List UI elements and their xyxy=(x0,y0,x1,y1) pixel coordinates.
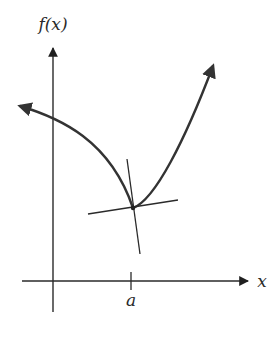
derivative-corner-diagram: f(x) x a xyxy=(0,0,268,340)
graph-canvas: f(x) x a xyxy=(0,0,268,340)
curve-left-branch xyxy=(20,106,133,208)
tick-a-label: a xyxy=(126,290,136,310)
y-axis-label: f(x) xyxy=(36,14,67,34)
x-axis-label: x xyxy=(257,271,267,291)
corner-point xyxy=(131,206,135,210)
x-axis xyxy=(22,272,248,290)
curve-right-branch xyxy=(133,66,213,208)
